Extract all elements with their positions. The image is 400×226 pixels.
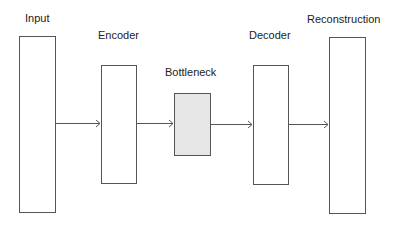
connector-arrows: [0, 0, 400, 226]
